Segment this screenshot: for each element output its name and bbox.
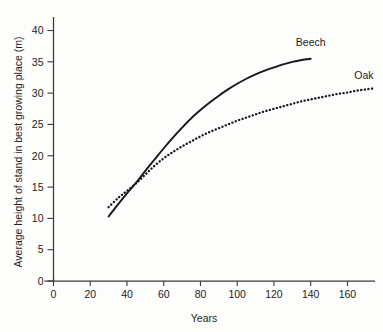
chart-container: 0204060801001201401600510152025303540 Be… (0, 0, 383, 332)
y-tick-label: 15 (32, 181, 44, 193)
line-chart: 0204060801001201401600510152025303540 Be… (0, 0, 383, 332)
series-label-beech: Beech (296, 36, 326, 48)
x-tick-label: 100 (228, 288, 246, 300)
y-tick-label: 25 (32, 118, 44, 130)
tick-marks (48, 31, 348, 286)
x-tick-label: 120 (265, 288, 283, 300)
series-curve-oak (109, 88, 375, 207)
y-tick-label: 30 (32, 87, 44, 99)
x-tick-label: 80 (195, 288, 207, 300)
series-label-oak: Oak (354, 69, 374, 81)
y-tick-label: 35 (32, 56, 44, 68)
y-tick-label: 20 (32, 150, 44, 162)
x-tick-label: 160 (339, 288, 357, 300)
x-tick-label: 0 (51, 288, 57, 300)
y-tick-label: 40 (32, 24, 44, 36)
series-curve-beech (109, 59, 311, 217)
x-tick-label: 40 (121, 288, 133, 300)
y-tick-label: 0 (38, 275, 44, 287)
x-axis-title: Years (191, 312, 217, 324)
x-tick-label: 60 (158, 288, 170, 300)
x-tick-label: 20 (84, 288, 96, 300)
tick-labels: 0204060801001201401600510152025303540 (32, 24, 357, 300)
data-series (109, 59, 375, 217)
x-tick-label: 140 (302, 288, 320, 300)
y-tick-label: 10 (32, 212, 44, 224)
axes (45, 17, 376, 281)
y-axis-title: Average height of stand in best growing … (12, 37, 24, 268)
y-tick-label: 5 (38, 243, 44, 255)
